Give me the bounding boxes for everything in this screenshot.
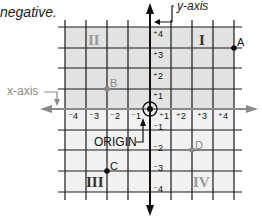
x-tick-neg1: ⁻1 [131,111,141,121]
y-tick-neg3: ⁻3 [153,163,163,173]
point-d-label: D [195,139,203,151]
quadrant-ii-label: II [88,32,100,49]
y-axis-down-arrow-icon [146,205,154,216]
point-c [104,168,110,174]
y-axis-callout [154,6,174,25]
y-tick-neg1: ⁻1 [153,122,163,132]
quadrant-iii-label: III [86,174,104,191]
x-axis-left-arrow-icon [40,105,52,113]
x-tick-pos4: ⁺4 [218,111,228,121]
quadrant-iv-label: IV [193,174,210,191]
x-tick-pos2: ⁺2 [176,111,186,121]
x-tick-neg4: ⁻4 [68,111,78,121]
y-tick-pos2: ⁺2 [153,71,163,81]
x-tick-pos1: ⁺1 [159,111,169,121]
x-axis-label: x-axis [7,84,38,98]
y-axis-label: y-axis [177,0,208,13]
y-tick-pos1: ⁺1 [153,91,163,101]
point-a-label: A [237,36,244,48]
origin-label: ORIGIN [94,135,137,149]
y-tick-neg2: ⁻2 [153,143,163,153]
x-axis-right-arrow-icon [246,105,258,113]
point-d [189,147,195,153]
y-tick-pos3: ⁺3 [153,50,163,60]
y-axis-up-arrow-icon [146,3,154,14]
y-tick-neg4: ⁻4 [153,184,163,194]
y-tick-pos4: ⁺4 [153,29,163,39]
point-a [231,45,237,51]
x-tick-neg2: ⁻2 [110,111,120,121]
x-axis-callout [44,92,60,106]
point-c-label: C [110,160,118,172]
x-tick-pos3: ⁺3 [197,111,207,121]
point-b [104,86,110,92]
coordinate-plane [0,0,262,218]
quadrant-i-label: I [199,32,205,49]
x-tick-neg3: ⁻3 [89,111,99,121]
point-b-label: B [110,77,117,89]
coordinate-plane-figure: negative. [0,0,262,218]
